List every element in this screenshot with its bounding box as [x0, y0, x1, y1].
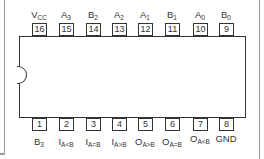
pin-label-11: B1: [157, 9, 187, 23]
pin-label-16: VCC: [24, 9, 54, 23]
pin-label-1: B3: [24, 136, 54, 150]
pin-6: 6: [165, 118, 180, 131]
pin-label-15: A3: [51, 9, 81, 23]
pin-7: 7: [193, 118, 208, 131]
pin-5: 5: [138, 118, 153, 131]
pin-label-2: IA<B: [51, 136, 81, 150]
pin-4: 4: [112, 118, 127, 131]
pin-11: 11: [165, 23, 180, 36]
pin-label-6: OA=B: [157, 136, 187, 150]
pin-16: 16: [32, 23, 47, 36]
pin-10: 10: [193, 23, 208, 36]
ic-body: [19, 36, 246, 118]
pin-label-5: OA>B: [130, 136, 160, 150]
frame-right-border: [259, 0, 260, 159]
pin-9: 9: [219, 23, 234, 36]
frame-left-border: [4, 0, 5, 154]
pin-label-9: B0: [211, 9, 241, 23]
pin-8: 8: [219, 118, 234, 131]
pin-14: 14: [86, 23, 101, 36]
frame-bottom-stub: [0, 153, 5, 155]
pin-12: 12: [138, 23, 153, 36]
pin-label-12: A1: [130, 9, 160, 23]
pin-label-8: GND: [211, 133, 241, 147]
pin-3: 3: [86, 118, 101, 131]
pin-2: 2: [59, 118, 74, 131]
pin-1: 1: [32, 118, 47, 131]
pin-15: 15: [59, 23, 74, 36]
pin-13: 13: [112, 23, 127, 36]
